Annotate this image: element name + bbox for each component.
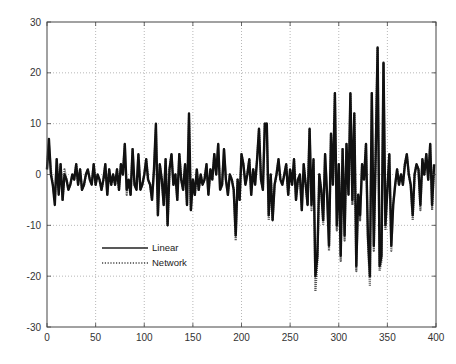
x-tick-label: 0 — [44, 332, 50, 343]
x-tick-label: 350 — [379, 332, 396, 343]
line-linear — [47, 47, 434, 276]
y-tick-label: 0 — [35, 169, 41, 180]
x-tick-label: 150 — [185, 332, 202, 343]
y-tick-label: 20 — [30, 67, 42, 78]
legend: Linear Network — [102, 242, 187, 268]
series-linear — [47, 47, 434, 276]
y-tick-label: -10 — [27, 220, 42, 231]
x-tick-label: 250 — [282, 332, 299, 343]
x-tick-label: 400 — [428, 332, 445, 343]
x-tick-label: 300 — [330, 332, 347, 343]
x-tick-label: 100 — [136, 332, 153, 343]
y-tick-label: 30 — [30, 17, 42, 28]
legend-linear-label: Linear — [152, 242, 178, 253]
x-tick-label: 50 — [90, 332, 102, 343]
y-tick-label: -20 — [27, 271, 42, 282]
x-tick-label: 200 — [233, 332, 250, 343]
y-tick-label: -30 — [27, 322, 42, 333]
y-tick-label: 10 — [30, 118, 42, 129]
line-chart: -30-20-100102030 05010015020025030035040… — [0, 0, 456, 364]
legend-network-label: Network — [152, 257, 187, 268]
